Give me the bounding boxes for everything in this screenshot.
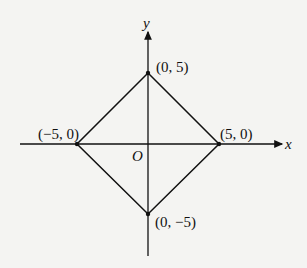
coordinate-diagram: y x O (0, 5) (5, 0) (0, −5) (−5, 0) bbox=[0, 0, 307, 268]
vertex-left-dot bbox=[75, 142, 79, 146]
vertex-left-label: (−5, 0) bbox=[38, 126, 79, 143]
origin-label: O bbox=[132, 148, 143, 164]
vertex-bottom-dot bbox=[146, 212, 150, 216]
vertex-top-dot bbox=[146, 71, 150, 75]
vertex-right-label: (5, 0) bbox=[220, 126, 253, 143]
y-axis-label: y bbox=[141, 15, 150, 31]
vertex-top-label: (0, 5) bbox=[156, 59, 189, 76]
vertex-bottom-label: (0, −5) bbox=[155, 214, 196, 231]
x-axis-label: x bbox=[284, 136, 292, 152]
vertex-right-dot bbox=[217, 142, 221, 146]
